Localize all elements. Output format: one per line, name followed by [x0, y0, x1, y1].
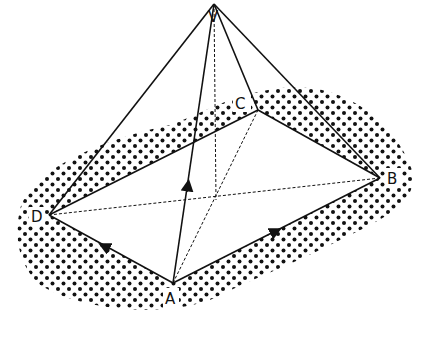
label-b: B [387, 170, 397, 188]
pyramid-diagram: V C D B A [0, 0, 444, 337]
label-c: C [235, 95, 245, 113]
label-v: V [208, 8, 219, 26]
label-a: A [165, 290, 176, 308]
arrow-icon-av [187, 185, 188, 192]
label-d: D [31, 208, 43, 226]
